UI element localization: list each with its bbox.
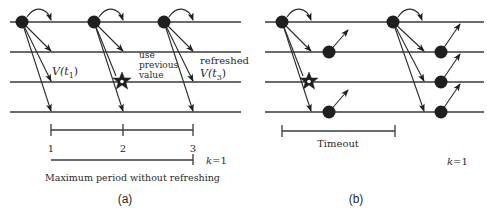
- receiver-node: [435, 106, 448, 119]
- response-nodes-b2: [435, 24, 461, 119]
- tick-label-3: 3: [190, 143, 196, 154]
- tick-label-1: 1: [48, 143, 54, 154]
- k-label-a: k=1: [206, 155, 227, 166]
- sender-node: [88, 16, 101, 29]
- message-arrow: [282, 22, 311, 111]
- caption-a: (a): [118, 192, 133, 206]
- period-scale: 1 2 3 k=1 Maximum period without refresh…: [45, 124, 227, 183]
- self-arrow: [398, 9, 422, 20]
- self-arrow: [27, 9, 51, 20]
- sender-node: [387, 16, 400, 29]
- receiver-node: [435, 76, 448, 89]
- figure-canvas: V(t1) use previous value refreshed V(t3)…: [0, 0, 487, 214]
- panel-a: V(t1) use previous value refreshed V(t3)…: [10, 9, 250, 206]
- message-arrow: [393, 22, 424, 111]
- panel-b: Timeout k=1 (b): [265, 9, 484, 206]
- label-v-t3: V(t3): [200, 67, 226, 82]
- self-arrow: [99, 9, 123, 20]
- max-period-label: Maximum period without refreshing: [45, 172, 220, 183]
- sender-node: [158, 16, 171, 29]
- receiver-node: [323, 106, 336, 119]
- self-arrow: [287, 9, 311, 20]
- label-v-t1: V(t1): [52, 65, 78, 80]
- sender-node: [16, 16, 29, 29]
- message-arrow: [94, 22, 116, 76]
- label-refreshed: refreshed: [200, 55, 250, 66]
- response-nodes-b1: [323, 30, 349, 119]
- timeout-scale: Timeout: [282, 125, 395, 149]
- broadcast-group-b2: [387, 9, 425, 111]
- receiver-node: [323, 46, 336, 59]
- timeout-label: Timeout: [317, 138, 359, 149]
- tick-label-2: 2: [120, 143, 126, 154]
- broadcast-group-1: [16, 9, 52, 111]
- receiver-node: [435, 46, 448, 59]
- sender-node: [276, 16, 289, 29]
- message-arrow: [22, 22, 51, 111]
- broadcast-group-b1: [276, 9, 312, 111]
- self-arrow: [169, 9, 193, 20]
- caption-b: (b): [349, 192, 364, 206]
- k-label-b: k=1: [447, 156, 468, 167]
- broadcast-group-2: [88, 9, 124, 111]
- message-arrow: [94, 22, 123, 111]
